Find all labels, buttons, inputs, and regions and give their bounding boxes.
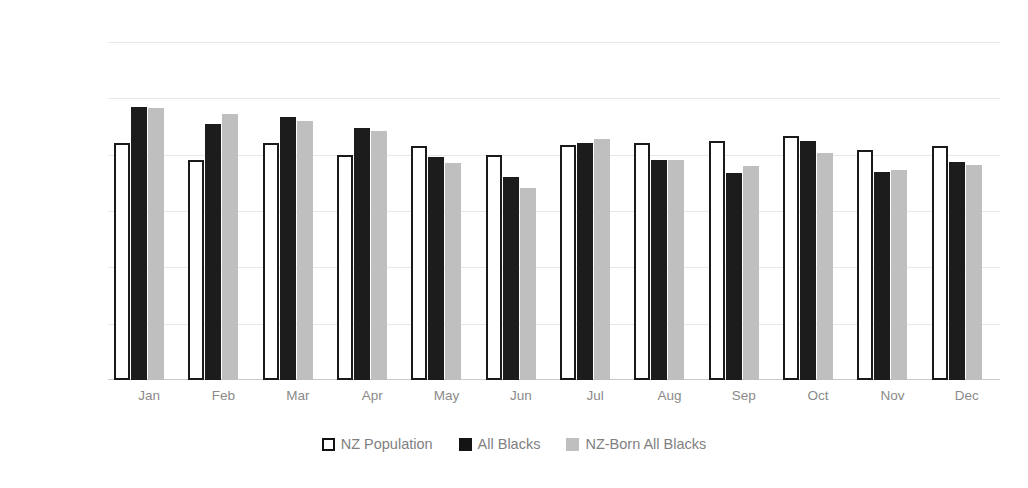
bar-group-apr <box>331 42 405 380</box>
bar-group-oct <box>777 42 851 380</box>
bar[interactable] <box>891 170 907 380</box>
bar-group-jun <box>480 42 554 380</box>
bar[interactable] <box>560 145 576 380</box>
bar[interactable] <box>114 143 130 380</box>
bar-group-jul <box>554 42 628 380</box>
bar[interactable] <box>743 166 759 380</box>
x-tick-label-apr: Apr <box>331 388 405 414</box>
bar[interactable] <box>800 141 816 380</box>
bar[interactable] <box>445 163 461 380</box>
bar[interactable] <box>148 108 164 380</box>
bar[interactable] <box>932 146 948 380</box>
chart-legend: NZ PopulationAll BlacksNZ-Born All Black… <box>0 436 1028 452</box>
bar-groups <box>108 42 1000 380</box>
x-tick-label-oct: Oct <box>777 388 851 414</box>
bar[interactable] <box>428 157 444 380</box>
bar-group-sep <box>703 42 777 380</box>
x-axis-tick-labels: JanFebMarAprMayJunJulAugSepOctNovDec <box>108 388 1000 414</box>
bar[interactable] <box>817 153 833 380</box>
bar[interactable] <box>297 121 313 380</box>
legend-label: All Blacks <box>478 436 541 452</box>
bar[interactable] <box>949 162 965 380</box>
bar[interactable] <box>634 143 650 380</box>
bar[interactable] <box>503 177 519 380</box>
bar[interactable] <box>577 143 593 380</box>
bar-group-jan <box>108 42 182 380</box>
legend-item[interactable]: All Blacks <box>459 436 541 452</box>
bar[interactable] <box>709 141 725 380</box>
x-tick-label-nov: Nov <box>851 388 925 414</box>
bar[interactable] <box>857 150 873 380</box>
bar[interactable] <box>966 165 982 380</box>
legend-label: NZ-Born All Blacks <box>585 436 706 452</box>
legend-swatch-icon <box>566 438 579 451</box>
bar[interactable] <box>222 114 238 380</box>
bar[interactable] <box>651 160 667 380</box>
bar[interactable] <box>411 146 427 380</box>
bar-group-dec <box>926 42 1000 380</box>
bar[interactable] <box>594 139 610 380</box>
legend-swatch-icon <box>322 438 335 451</box>
legend-item[interactable]: NZ-Born All Blacks <box>566 436 706 452</box>
legend-item[interactable]: NZ Population <box>322 436 433 452</box>
x-tick-label-jun: Jun <box>480 388 554 414</box>
x-tick-label-sep: Sep <box>703 388 777 414</box>
bar-group-nov <box>851 42 925 380</box>
bar[interactable] <box>874 172 890 380</box>
bar[interactable] <box>371 131 387 380</box>
legend-swatch-icon <box>459 438 472 451</box>
bar[interactable] <box>668 160 684 380</box>
bar[interactable] <box>726 173 742 380</box>
bar-group-feb <box>182 42 256 380</box>
legend-label: NZ Population <box>341 436 433 452</box>
bar[interactable] <box>354 128 370 380</box>
bar-group-may <box>405 42 479 380</box>
bar[interactable] <box>486 155 502 380</box>
bar[interactable] <box>520 188 536 380</box>
bar-group-aug <box>628 42 702 380</box>
x-tick-label-mar: Mar <box>257 388 331 414</box>
plot-area: 0%2%4%6%8%10%12% <box>108 42 1000 380</box>
x-tick-label-feb: Feb <box>182 388 256 414</box>
bar[interactable] <box>205 124 221 380</box>
bar[interactable] <box>280 117 296 380</box>
bar[interactable] <box>131 107 147 380</box>
x-tick-label-dec: Dec <box>926 388 1000 414</box>
x-tick-label-jan: Jan <box>108 388 182 414</box>
bar[interactable] <box>337 155 353 380</box>
bar[interactable] <box>263 143 279 380</box>
bar[interactable] <box>783 136 799 380</box>
bar[interactable] <box>188 160 204 380</box>
x-tick-label-may: May <box>405 388 479 414</box>
bar-chart: Percentage of births by month 0%2%4%6%8%… <box>0 0 1028 488</box>
x-tick-label-jul: Jul <box>554 388 628 414</box>
x-tick-label-aug: Aug <box>628 388 702 414</box>
bar-group-mar <box>257 42 331 380</box>
